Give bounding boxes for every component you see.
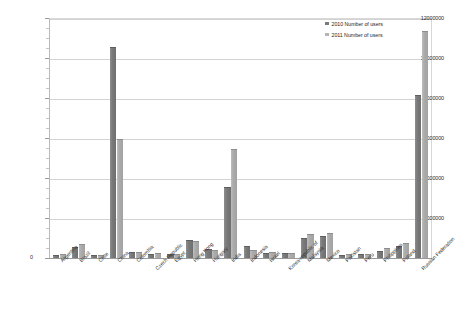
y-minor-tick [46, 248, 49, 249]
bar [415, 95, 421, 258]
y-minor-tick [46, 118, 49, 119]
bar [129, 252, 135, 258]
y-major-tick [45, 18, 49, 19]
bar-group [88, 18, 107, 258]
y-minor-tick [46, 208, 49, 209]
bar-group [202, 18, 221, 258]
bar-group [412, 18, 431, 258]
bars-layer [50, 18, 431, 258]
legend-label: 2011 Number of users [332, 32, 383, 38]
legend-item-2010: 2010 Number of users [325, 19, 430, 28]
y-minor-tick [46, 28, 49, 29]
y-minor-tick [46, 38, 49, 39]
bar-group [126, 18, 145, 258]
y-minor-tick [46, 158, 49, 159]
y-minor-tick [46, 78, 49, 79]
bar-group [317, 18, 336, 258]
bar [117, 139, 123, 258]
y-minor-tick [46, 148, 49, 149]
y-major-tick [45, 258, 49, 259]
bar [282, 253, 288, 258]
bar-group [50, 18, 69, 258]
bar [53, 255, 59, 258]
y-minor-tick [46, 188, 49, 189]
y-major-tick [45, 58, 49, 59]
bar [288, 253, 294, 258]
legend-label: 2010 Number of users [332, 21, 383, 27]
bar-group [279, 18, 298, 258]
y-minor-tick [46, 68, 49, 69]
y-minor-tick [46, 228, 49, 229]
y-minor-tick [46, 238, 49, 239]
y-minor-tick [46, 168, 49, 169]
bar [110, 47, 116, 258]
bar [186, 240, 192, 258]
y-major-tick [45, 178, 49, 179]
bar [155, 253, 161, 258]
bar-group [145, 18, 164, 258]
legend-item-2011: 2011 Number of users [325, 30, 430, 39]
bar [422, 31, 428, 258]
y-minor-tick [46, 48, 49, 49]
x-axis-labels: ArgentinaBrazilChileChinaColombiaCzech R… [50, 259, 431, 314]
y-major-tick [45, 138, 49, 139]
y-minor-tick [46, 128, 49, 129]
bar-group [393, 18, 412, 258]
bar-group [183, 18, 202, 258]
bar-group [374, 18, 393, 258]
bar [263, 253, 269, 258]
y-tick-label-zero: 0 [30, 254, 33, 260]
y-minor-tick [46, 88, 49, 89]
bar [244, 246, 250, 258]
bar-group [221, 18, 240, 258]
legend-swatch-icon [325, 22, 329, 26]
y-minor-tick [46, 198, 49, 199]
bar-group [107, 18, 126, 258]
bar-group [69, 18, 88, 258]
y-major-tick [45, 98, 49, 99]
bar-group [298, 18, 317, 258]
bar-group [260, 18, 279, 258]
bar [91, 255, 97, 258]
bar-group [164, 18, 183, 258]
bar [148, 254, 154, 258]
bar-group [241, 18, 260, 258]
bar-group [355, 18, 374, 258]
legend: 2010 Number of users 2011 Number of user… [325, 19, 430, 41]
bar [231, 149, 237, 258]
legend-swatch-icon [325, 33, 329, 37]
y-minor-tick [46, 108, 49, 109]
bar-group [336, 18, 355, 258]
y-major-tick [45, 218, 49, 219]
